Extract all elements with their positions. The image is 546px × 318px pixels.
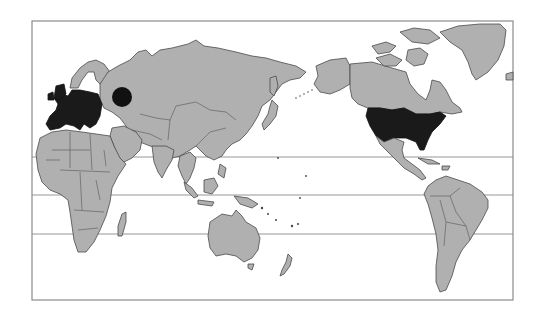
world-map bbox=[0, 0, 546, 318]
greenland bbox=[440, 24, 506, 80]
ireland-highlight bbox=[48, 92, 54, 100]
alaska bbox=[314, 58, 350, 94]
sumatra bbox=[184, 182, 198, 198]
cuba bbox=[418, 158, 440, 164]
java bbox=[198, 200, 214, 206]
pacific-islands bbox=[261, 157, 307, 227]
new-zealand bbox=[280, 254, 292, 276]
russia-dot-marker bbox=[112, 87, 132, 107]
tasmania bbox=[248, 264, 254, 270]
united-states-highlight bbox=[366, 108, 446, 150]
madagascar bbox=[118, 212, 126, 236]
philippines bbox=[218, 164, 226, 178]
baffin-island bbox=[406, 48, 428, 66]
kamchatka bbox=[270, 76, 278, 96]
australia bbox=[208, 210, 260, 262]
aleutian-islands bbox=[295, 89, 313, 99]
new-guinea bbox=[234, 196, 258, 208]
arctic-islands-1 bbox=[372, 42, 396, 54]
southeast-asia bbox=[178, 152, 196, 184]
india bbox=[152, 146, 174, 178]
borneo bbox=[204, 178, 218, 194]
canada bbox=[350, 62, 462, 114]
hispaniola bbox=[442, 166, 450, 170]
iceland bbox=[506, 72, 513, 80]
arctic-islands-2 bbox=[400, 28, 440, 44]
